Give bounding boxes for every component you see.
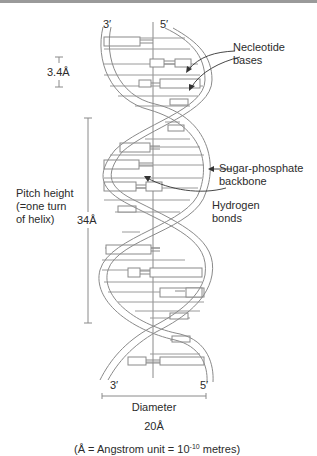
bottom-3prime-label: 3′ [110,379,118,392]
angstrom-footnote: (Å = Angstrom unit = 10-10 metres) [74,440,240,456]
base-spacing-value: 3.4Å [47,66,70,79]
top-5prime-label: 5′ [160,18,168,31]
pitch-value: 34Å [77,214,97,227]
nucleotide-bases-label: Necleotide bases [233,41,285,67]
diameter-value: 20Å [124,420,184,433]
backbone-label: Sugar-phosphate backbone [219,162,303,188]
hydrogen-bonds-label: Hydrogen bonds [212,199,260,225]
top-3prime-label: 3′ [103,18,111,31]
bottom-5prime-label: 5′ [200,379,208,392]
diameter-dimension [102,393,206,399]
diameter-label: Diameter [124,401,184,414]
pitch-height-label: Pitch height (=one turn of helix) [16,187,73,226]
